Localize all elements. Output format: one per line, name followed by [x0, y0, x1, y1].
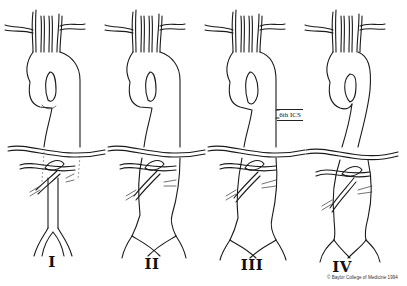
- aorta-illustrations: [0, 0, 407, 286]
- panel-iv-drawing: [305, 10, 398, 262]
- sixth-ics-annotation: 6th ICS: [277, 109, 303, 121]
- copyright-notice: © Baylor College of Medicine 1994: [327, 275, 398, 280]
- panel-i-drawing: [5, 10, 105, 256]
- panel-label-ii: II: [144, 255, 159, 273]
- panel-iii-drawing: [205, 10, 305, 260]
- panel-ii-drawing: [105, 10, 205, 258]
- panel-label-iii: III: [241, 256, 264, 274]
- panel-label-i: I: [48, 253, 56, 271]
- panel-label-iv: IV: [332, 258, 352, 276]
- crawford-diagram: 6th ICS I II III IV © Baylor College of …: [0, 0, 407, 286]
